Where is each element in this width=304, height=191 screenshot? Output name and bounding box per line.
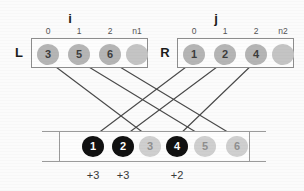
merged-cell-1[interactable]: 2	[112, 136, 134, 157]
merged-cell-3[interactable]: 4	[166, 136, 188, 157]
left-column-header-2: 2	[99, 26, 121, 36]
right-cell-sentinel[interactable]	[272, 44, 294, 65]
offset-label-2: +2	[164, 169, 190, 181]
left-array-label-L: L	[12, 45, 26, 60]
right-column-header-1: 1	[214, 26, 236, 36]
offset-label-0: +3	[80, 169, 106, 181]
merged-cell-0[interactable]: 1	[82, 136, 104, 157]
right-cell-1[interactable]: 2	[214, 44, 236, 65]
right-cell-2[interactable]: 4	[245, 44, 267, 65]
right-column-header-n2: n2	[272, 26, 294, 36]
left-cell-2[interactable]: 6	[99, 44, 121, 65]
left-cell-0[interactable]: 3	[37, 44, 59, 65]
right-column-header-0: 0	[183, 26, 205, 36]
merge-diagram-canvas: i j L 0 1 2 n1 3 5 6 R 0 1 2 n2 1 2 4 1 …	[0, 0, 304, 191]
left-column-header-0: 0	[37, 26, 59, 36]
connector-R1-to-merged1	[123, 61, 225, 137]
right-column-header-2: 2	[245, 26, 267, 36]
left-cell-sentinel[interactable]	[126, 44, 148, 65]
right-cell-0[interactable]: 1	[183, 44, 205, 65]
left-column-header-n1: n1	[126, 26, 148, 36]
offset-label-1: +3	[110, 169, 136, 181]
right-index-variable-j: j	[209, 11, 223, 26]
left-column-header-1: 1	[68, 26, 90, 36]
merged-cell-4[interactable]: 5	[194, 136, 216, 157]
left-cell-1[interactable]: 5	[68, 44, 90, 65]
merged-cell-5[interactable]: 6	[226, 136, 248, 157]
left-index-variable-i: i	[63, 11, 77, 26]
merged-cell-2[interactable]: 3	[139, 136, 161, 157]
connector-R0-to-merged0	[93, 61, 194, 137]
right-array-label-R: R	[158, 45, 172, 60]
